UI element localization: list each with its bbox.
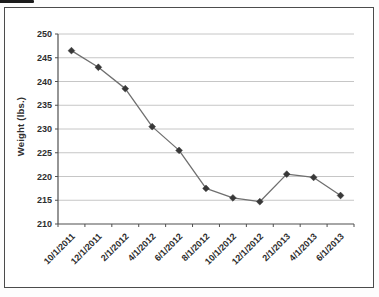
y-tick-label: 225 [37,148,52,158]
data-point-marker [337,192,344,199]
weight-line-chart: 21021522022523023524024525010/1/201112/1… [0,0,379,297]
y-tick-label: 245 [37,53,52,63]
scanned-weight-chart-figure: Weight (lbs.) 21021522022523023524024525… [0,0,379,297]
x-tick-label: 2/1/2013 [260,231,292,263]
x-tick-label: 6/1/2012 [153,231,185,263]
y-tick-label: 215 [37,195,52,205]
y-tick-label: 250 [37,29,52,39]
y-tick-label: 220 [37,172,52,182]
series-line [71,51,340,202]
y-tick-label: 230 [37,124,52,134]
y-tick-label: 210 [37,219,52,229]
x-tick-label: 4/1/2013 [287,231,319,263]
x-tick-label: 4/1/2012 [126,231,158,263]
x-tick-label: 6/1/2013 [314,231,346,263]
data-point-marker [310,174,317,181]
y-tick-label: 240 [37,77,52,87]
x-tick-label: 2/1/2012 [99,231,131,263]
y-tick-label: 235 [37,100,52,110]
data-point-marker [68,47,75,54]
